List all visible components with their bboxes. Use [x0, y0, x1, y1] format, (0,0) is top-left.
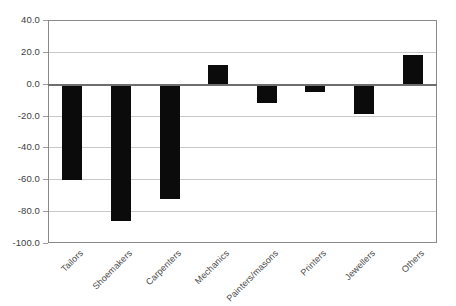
bar-mechanics	[208, 65, 228, 84]
y-axis-tick-label: 0.0	[26, 79, 40, 89]
x-axis-tick-label: Painters/masons	[224, 248, 280, 304]
bar-painters-masons	[257, 84, 277, 103]
y-axis-tick-label: -100.0	[12, 238, 40, 248]
y-axis-tick-label: -40.0	[18, 142, 40, 152]
bar-chart: 40.020.00.0-20.0-40.0-60.0-80.0-100.0Tai…	[0, 0, 456, 306]
y-axis-tick-label: -60.0	[18, 174, 40, 184]
x-axis-tick-label: Tailors	[59, 248, 85, 274]
y-axis-tick-label: -80.0	[18, 206, 40, 216]
x-axis-tick-label: Shoemakers	[90, 248, 134, 292]
bar-others	[403, 55, 423, 84]
y-axis-tick-label: -20.0	[18, 111, 40, 121]
bar-jewellers	[354, 84, 374, 114]
bar-carpenters	[160, 84, 180, 199]
y-axis-tick-label: 20.0	[21, 47, 40, 57]
zero-baseline	[48, 84, 437, 86]
y-axis-tick-mark	[43, 243, 48, 244]
x-axis-tick-label: Jewellers	[343, 248, 377, 282]
plot-area-frame	[48, 20, 437, 243]
bar-tailors	[62, 84, 82, 180]
x-axis-tick-label: Mechanics	[193, 248, 231, 286]
bar-shoemakers	[111, 84, 131, 221]
x-axis-tick-label: Carpenters	[143, 248, 182, 287]
x-axis-tick-label: Printers	[299, 248, 329, 278]
x-axis-tick-label: Others	[399, 248, 426, 275]
y-axis-tick-label: 40.0	[21, 15, 40, 25]
